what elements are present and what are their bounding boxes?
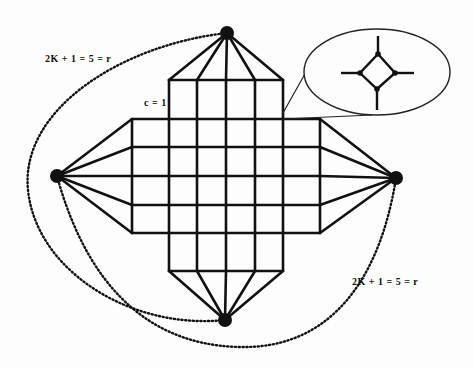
vertex-bottom bbox=[218, 313, 232, 327]
vertex-top bbox=[220, 26, 234, 40]
path-length-label-bottom: 2K + 1 = 5 = r bbox=[352, 276, 418, 287]
vertex-left bbox=[50, 169, 64, 183]
cell-size-label: c = 1 bbox=[144, 97, 167, 108]
vertex-right bbox=[389, 171, 403, 185]
path-length-label-top: 2K + 1 = 5 = r bbox=[45, 53, 111, 64]
inset-callout bbox=[283, 29, 450, 119]
diagram-canvas: 2K + 1 = 5 = r c = 1 2K + 1 = 5 = r bbox=[0, 0, 474, 368]
